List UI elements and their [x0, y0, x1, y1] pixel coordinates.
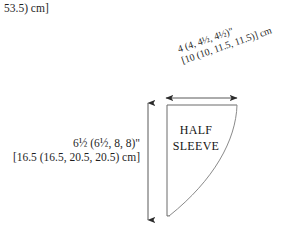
height-dimension-inches: 6½ (6½, 8, 8)"	[0, 136, 140, 150]
piece-name-label: HALF SLEEVE	[163, 122, 229, 154]
piece-name-line-2: SLEEVE	[163, 138, 229, 154]
schematic-page: 53.5) cm]	[0, 0, 303, 234]
piece-name-line-1: HALF	[163, 122, 229, 138]
height-dimension-label: 6½ (6½, 8, 8)" [16.5 (16.5, 20.5, 20.5) …	[0, 136, 140, 164]
height-dimension-cm: [16.5 (16.5, 20.5, 20.5) cm]	[0, 150, 140, 164]
